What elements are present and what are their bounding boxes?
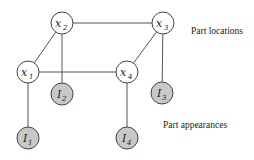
node-x3: x 3 xyxy=(152,12,174,34)
node-subscript: 4 xyxy=(127,73,132,81)
caption-part-appearances: Part appearances xyxy=(163,120,227,130)
node-subscript: 3 xyxy=(162,94,167,102)
node-subscript: 2 xyxy=(61,95,67,103)
node-x4: x 4 xyxy=(116,61,138,83)
node-subscript: 3 xyxy=(164,24,169,32)
node-i3: I 3 xyxy=(151,82,173,104)
node-i4: I 4 xyxy=(116,127,138,149)
node-label: x xyxy=(21,66,28,79)
node-label: x xyxy=(156,17,163,30)
node-subscript: 4 xyxy=(126,139,131,147)
node-i1: I 1 xyxy=(17,127,39,149)
edges xyxy=(28,23,163,138)
node-subscript: 1 xyxy=(28,139,32,147)
graphical-model-diagram: x 1 x 2 x 3 x 4 I 1 I 2 I 3 I 4 Part loc… xyxy=(0,0,254,160)
node-x1: x 1 xyxy=(17,61,39,83)
node-i2: I 2 xyxy=(51,83,73,105)
node-label: x xyxy=(120,66,127,79)
node-subscript: 1 xyxy=(29,73,33,81)
node-label: x xyxy=(55,17,62,30)
node-subscript: 2 xyxy=(62,24,68,32)
node-x2: x 2 xyxy=(51,12,73,34)
caption-part-locations: Part locations xyxy=(191,26,243,36)
